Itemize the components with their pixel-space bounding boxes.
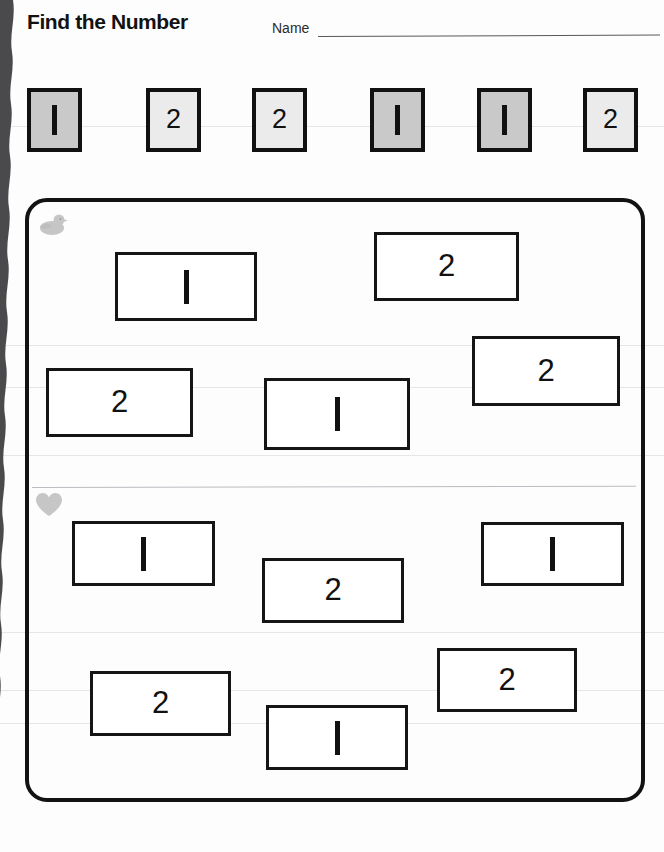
digit-two-glyph: 2 <box>166 106 181 133</box>
key-square-1-1[interactable] <box>27 88 82 152</box>
name-label: Name <box>272 20 309 36</box>
digit-one-glyph <box>502 105 507 135</box>
heart-icon <box>35 492 63 518</box>
answer-box-s1-1-1[interactable] <box>115 252 257 321</box>
key-square-1-4[interactable] <box>370 88 425 152</box>
digit-one-glyph <box>395 105 400 135</box>
digit-one-glyph <box>335 721 340 755</box>
answer-box-s1-4-1[interactable] <box>264 378 410 450</box>
answer-box-s1-2-2[interactable]: 2 <box>374 232 519 301</box>
page-title: Find the Number <box>27 10 188 34</box>
number-key-row: 222 <box>0 88 664 160</box>
worksheet-header: Find the Number Name <box>0 0 664 60</box>
answer-box-s2-5-1[interactable] <box>266 705 408 770</box>
digit-two-glyph: 2 <box>438 250 455 281</box>
answer-box-s1-5-2[interactable]: 2 <box>472 336 620 406</box>
digit-one-glyph <box>141 537 146 571</box>
answer-box-s2-6-2[interactable]: 2 <box>437 648 577 712</box>
answer-box-s2-1-1[interactable] <box>72 521 215 586</box>
duck-icon <box>37 212 69 236</box>
digit-one-glyph <box>550 537 555 571</box>
digit-two-glyph: 2 <box>111 386 128 417</box>
digit-one-glyph <box>335 397 340 431</box>
answer-box-s2-3-1[interactable] <box>481 522 624 586</box>
answer-box-s2-4-2[interactable]: 2 <box>90 671 231 736</box>
digit-two-glyph: 2 <box>603 106 618 133</box>
digit-two-glyph: 2 <box>498 664 515 695</box>
key-square-2-6[interactable]: 2 <box>583 88 638 152</box>
digit-two-glyph: 2 <box>537 355 554 386</box>
key-square-2-3[interactable]: 2 <box>252 88 307 152</box>
answer-box-s2-2-2[interactable]: 2 <box>262 558 404 623</box>
name-input-line[interactable] <box>318 35 660 37</box>
key-square-2-2[interactable]: 2 <box>146 88 201 152</box>
digit-two-glyph: 2 <box>152 687 169 718</box>
key-square-1-5[interactable] <box>477 88 532 152</box>
answer-box-s1-3-2[interactable]: 2 <box>46 368 193 437</box>
digit-two-glyph: 2 <box>324 574 341 605</box>
digit-one-glyph <box>184 270 189 304</box>
digit-one-glyph <box>52 105 57 135</box>
digit-two-glyph: 2 <box>272 106 287 133</box>
